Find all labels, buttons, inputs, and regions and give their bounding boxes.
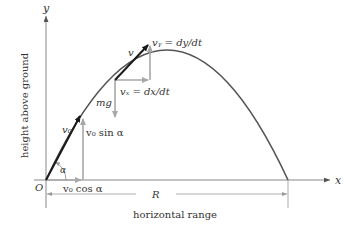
- y-axis-label: y: [42, 2, 50, 15]
- v0-sin-label: v₀ sin α: [85, 127, 124, 138]
- v0-cos-label: v₀ cos α: [62, 183, 103, 194]
- v-label: v: [128, 47, 134, 58]
- origin-label: O: [35, 182, 43, 193]
- vy-label: vᵧ = dy/dt: [152, 37, 203, 48]
- y-axis-title: height above ground: [19, 52, 30, 158]
- x-axis-label: x: [335, 174, 342, 187]
- mg-label: mg: [96, 97, 112, 108]
- angle-label: α: [60, 165, 66, 175]
- vx-label: vₓ = dx/dt: [120, 86, 171, 97]
- range-label: R: [151, 189, 160, 200]
- projectile-diagram: y x O height above ground horizontal ran…: [0, 0, 344, 232]
- v0-label: v₀: [62, 124, 72, 135]
- x-axis-title: horizontal range: [133, 209, 217, 220]
